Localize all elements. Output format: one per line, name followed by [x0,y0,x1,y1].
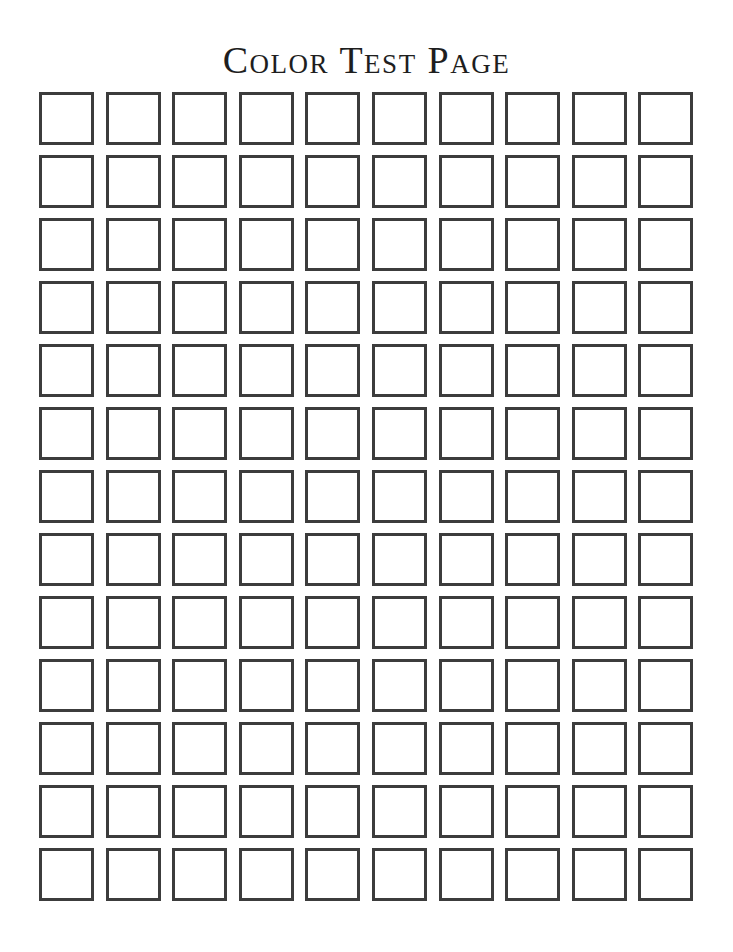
color-swatch-box [372,533,427,586]
color-swatch-box [372,281,427,334]
color-swatch-box [305,785,360,838]
color-swatch-box [505,533,560,586]
color-swatch-box [638,659,693,712]
color-swatch-box [106,659,161,712]
color-swatch-box [39,407,94,460]
color-swatch-box [638,785,693,838]
color-swatch-box [572,407,627,460]
color-swatch-box [305,407,360,460]
color-swatch-box [638,344,693,397]
color-swatch-box [572,659,627,712]
color-swatch-box [106,785,161,838]
color-swatch-box [305,848,360,901]
color-swatch-box [439,344,494,397]
color-swatch-box [305,344,360,397]
color-swatch-box [239,596,294,649]
color-swatch-box [106,92,161,145]
color-swatch-box [106,281,161,334]
color-swatch-box [505,281,560,334]
color-swatch-box [239,659,294,712]
color-swatch-box [39,92,94,145]
color-swatch-box [439,470,494,523]
color-swatch-box [439,155,494,208]
color-swatch-box [239,407,294,460]
color-swatch-box [239,344,294,397]
color-swatch-box [372,785,427,838]
color-swatch-box [106,596,161,649]
color-swatch-box [572,785,627,838]
color-swatch-box [439,92,494,145]
color-swatch-box [106,470,161,523]
color-swatch-box [39,785,94,838]
color-swatch-box [172,407,227,460]
color-swatch-box [372,155,427,208]
color-swatch-box [172,722,227,775]
color-swatch-box [572,722,627,775]
color-swatch-box [239,533,294,586]
color-swatch-box [305,533,360,586]
page-title: Color Test Page [0,38,733,82]
color-swatch-box [106,407,161,460]
color-swatch-box [172,848,227,901]
color-swatch-box [372,344,427,397]
color-swatch-box [239,848,294,901]
color-swatch-box [505,722,560,775]
color-swatch-box [172,470,227,523]
color-swatch-box [372,596,427,649]
color-swatch-box [305,722,360,775]
color-swatch-box [39,848,94,901]
color-swatch-box [505,785,560,838]
color-swatch-box [172,92,227,145]
color-swatch-box [439,848,494,901]
color-swatch-box [106,722,161,775]
color-swatch-box [439,218,494,271]
color-swatch-box [305,470,360,523]
color-swatch-box [39,281,94,334]
color-swatch-box [572,281,627,334]
color-swatch-box [638,848,693,901]
color-swatch-box [505,407,560,460]
color-swatch-box [372,407,427,460]
color-swatch-box [638,533,693,586]
color-swatch-grid [39,92,693,901]
color-swatch-box [305,659,360,712]
color-swatch-box [638,92,693,145]
color-swatch-box [39,470,94,523]
color-swatch-box [239,281,294,334]
color-swatch-box [172,218,227,271]
color-swatch-box [239,722,294,775]
color-swatch-box [505,344,560,397]
color-swatch-box [106,344,161,397]
color-swatch-box [572,596,627,649]
color-swatch-box [39,218,94,271]
color-swatch-box [505,218,560,271]
color-swatch-box [572,92,627,145]
color-swatch-box [172,659,227,712]
color-swatch-box [39,596,94,649]
color-swatch-box [572,848,627,901]
color-swatch-box [106,533,161,586]
color-swatch-box [372,848,427,901]
color-swatch-box [39,344,94,397]
color-swatch-box [372,92,427,145]
color-swatch-box [305,155,360,208]
color-swatch-box [172,596,227,649]
color-swatch-box [638,722,693,775]
color-swatch-box [305,281,360,334]
color-swatch-box [39,722,94,775]
color-swatch-box [638,596,693,649]
color-swatch-box [638,407,693,460]
color-swatch-box [638,470,693,523]
color-swatch-box [439,785,494,838]
color-swatch-box [638,155,693,208]
color-swatch-box [372,470,427,523]
color-swatch-box [372,722,427,775]
color-swatch-box [572,155,627,208]
color-swatch-box [572,470,627,523]
color-swatch-box [439,407,494,460]
color-swatch-box [638,218,693,271]
color-swatch-box [39,155,94,208]
color-swatch-box [439,722,494,775]
color-swatch-box [572,218,627,271]
color-swatch-box [172,533,227,586]
